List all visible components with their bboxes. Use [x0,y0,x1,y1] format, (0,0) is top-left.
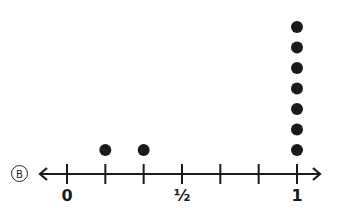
data-dots [99,21,303,156]
data-dot [99,144,111,156]
data-dot [291,103,303,115]
data-dot [138,144,150,156]
tick-label-one: 1 [291,186,302,205]
data-dot [291,62,303,74]
data-dot [291,83,303,95]
data-dot [291,42,303,54]
tick-label-half: ½ [174,186,191,205]
data-dot [291,21,303,33]
data-dot [291,124,303,136]
data-dot [291,144,303,156]
line-plot [0,0,340,213]
number-line [40,164,320,184]
tick-label-zero: 0 [61,186,72,205]
